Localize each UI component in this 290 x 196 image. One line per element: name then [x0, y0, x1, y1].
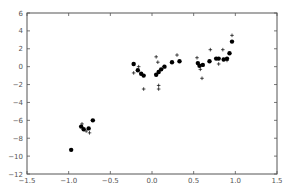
dot-marker — [170, 60, 174, 64]
x-tick-label: −1.0 — [60, 177, 77, 185]
dot-marker — [131, 62, 135, 66]
dot-marker — [201, 63, 205, 67]
y-tick-label: −8 — [13, 135, 23, 143]
x-tick-label: −0.5 — [102, 177, 119, 185]
dot-marker — [216, 56, 220, 60]
dot-marker — [141, 73, 145, 77]
chart-background — [0, 0, 290, 196]
scatter-chart: −1.5−1.0−0.50.00.51.01.56420−2−4−6−8−10−… — [0, 0, 290, 196]
x-tick-label: 1.0 — [230, 177, 241, 185]
y-tick-label: −12 — [8, 171, 23, 179]
dot-marker — [91, 118, 95, 122]
dot-marker — [230, 39, 234, 43]
dot-marker — [86, 126, 90, 130]
y-tick-label: −10 — [8, 153, 23, 161]
y-tick-label: −4 — [13, 99, 24, 107]
y-tick-label: 2 — [19, 45, 23, 53]
y-tick-label: 6 — [19, 10, 24, 18]
dot-marker — [227, 51, 231, 55]
y-tick-label: 4 — [19, 27, 24, 35]
y-tick-label: 0 — [19, 63, 23, 71]
dot-marker — [69, 148, 73, 152]
x-tick-label: 0.5 — [188, 177, 199, 185]
x-tick-label: 0.0 — [146, 177, 157, 185]
dot-marker — [136, 68, 140, 72]
dot-marker — [207, 59, 211, 63]
y-tick-label: −6 — [13, 117, 24, 125]
dot-marker — [177, 59, 181, 63]
y-tick-label: −2 — [13, 81, 23, 89]
x-tick-label: 1.5 — [271, 177, 282, 185]
